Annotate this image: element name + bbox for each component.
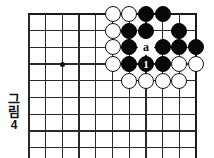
stone-white	[121, 73, 137, 89]
stone-move-number: 1	[143, 58, 149, 69]
stone-white	[105, 56, 121, 72]
figure-container: a1 그 림 4	[0, 0, 214, 158]
stone-white	[188, 56, 204, 72]
stone-white	[171, 73, 187, 89]
figure-caption: 그 림 4	[4, 92, 24, 131]
stone-black	[138, 23, 154, 39]
stone-black-move-1: 1	[138, 56, 154, 72]
grid-line-vertical	[28, 14, 29, 158]
stone-white	[171, 56, 187, 72]
stone-black	[171, 23, 187, 39]
stone-white	[105, 6, 121, 22]
stone-white	[155, 73, 171, 89]
stone-white	[105, 23, 121, 39]
stone-black	[155, 56, 171, 72]
grid-line-vertical	[62, 14, 63, 158]
stone-black	[155, 6, 171, 22]
stone-black	[188, 39, 204, 55]
stone-white	[105, 39, 121, 55]
star-point	[60, 62, 65, 67]
stone-black	[121, 39, 137, 55]
stone-black	[138, 6, 154, 22]
go-board: a1	[0, 0, 214, 158]
grid-line-vertical	[78, 14, 79, 158]
grid-line-vertical	[95, 14, 96, 158]
stone-black	[121, 23, 137, 39]
caption-number: 4	[4, 119, 24, 131]
stone-white	[138, 73, 154, 89]
grid-line-horizontal	[28, 114, 196, 115]
grid-line-horizontal	[28, 97, 196, 98]
point-marker-a: a	[138, 39, 154, 55]
grid-line-vertical	[45, 14, 46, 158]
stone-white	[121, 6, 137, 22]
stone-black	[121, 56, 137, 72]
caption-char-2: 림	[4, 105, 24, 118]
stone-black	[155, 39, 171, 55]
grid-line-horizontal	[28, 147, 196, 148]
grid-line-vertical	[195, 14, 198, 158]
stone-black	[171, 39, 187, 55]
grid-line-horizontal	[28, 130, 196, 131]
